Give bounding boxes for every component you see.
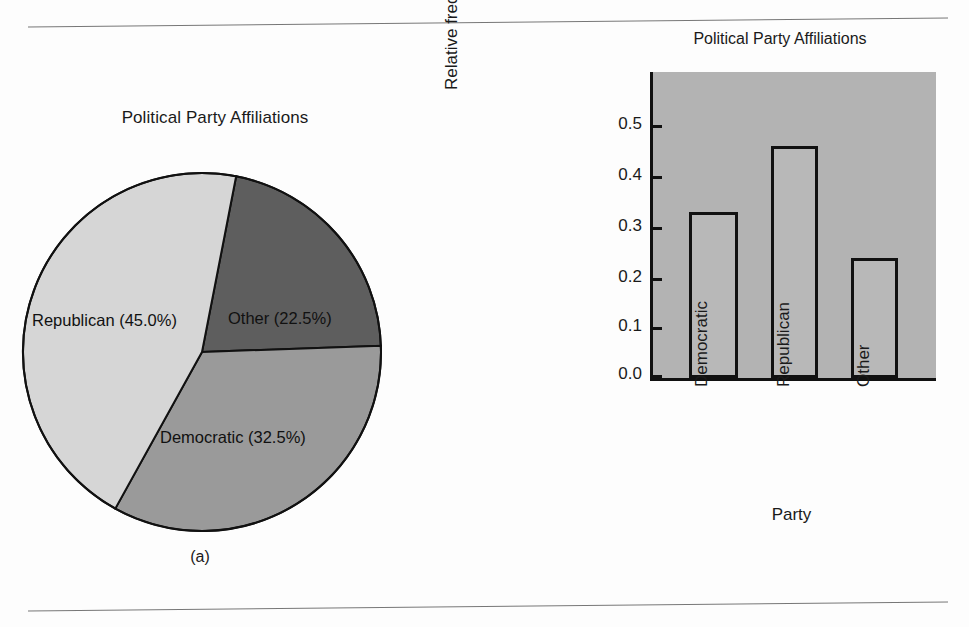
y-tick-5: 0.5 — [653, 125, 662, 128]
bar-republican: Republican — [771, 146, 818, 378]
bar-chart-plot-area: 0.0 0.1 0.2 0.3 0.4 0.5 Democratic Rep — [650, 72, 936, 381]
x-tick-label-republican: Republican — [774, 302, 794, 387]
y-tick-0: 0.0 — [653, 375, 662, 378]
figure-page: Political Party Affiliations Republican … — [0, 0, 969, 627]
bar-other: Other — [851, 258, 898, 378]
y-tick-label-2: 0.2 — [618, 267, 642, 287]
y-tick-label-5: 0.5 — [618, 114, 642, 134]
pie-label-other: Other (22.5%) — [228, 309, 332, 328]
panel-a-pie-chart: Political Party Affiliations Republican … — [0, 0, 500, 627]
bar-democratic: Democratic — [689, 212, 738, 378]
y-tick-label-4: 0.4 — [618, 165, 642, 185]
y-tick-3: 0.3 — [653, 227, 662, 230]
x-tick-label-other: Other — [854, 344, 874, 387]
bar-chart-y-axis-label: Relative frequency — [442, 0, 462, 90]
panel-b-bar-chart: Political Party Affiliations Relative fr… — [500, 0, 969, 627]
y-tick-label-0: 0.0 — [618, 364, 642, 384]
y-tick-label-1: 0.1 — [618, 316, 642, 336]
bar-chart-title: Political Party Affiliations — [600, 30, 960, 48]
pie-label-democratic: Democratic (32.5%) — [160, 428, 306, 447]
x-tick-label-democratic: Democratic — [692, 301, 712, 387]
y-tick-2: 0.2 — [653, 278, 662, 281]
pie-chart-graphic — [18, 165, 398, 545]
y-tick-1: 0.1 — [653, 327, 662, 330]
y-tick-label-3: 0.3 — [618, 216, 642, 236]
panel-a-caption: (a) — [140, 548, 260, 566]
y-tick-4: 0.4 — [653, 176, 662, 179]
pie-chart-title: Political Party Affiliations — [0, 108, 430, 128]
pie-label-republican: Republican (45.0%) — [32, 311, 177, 330]
bar-chart-x-axis-label: Party — [650, 505, 933, 525]
